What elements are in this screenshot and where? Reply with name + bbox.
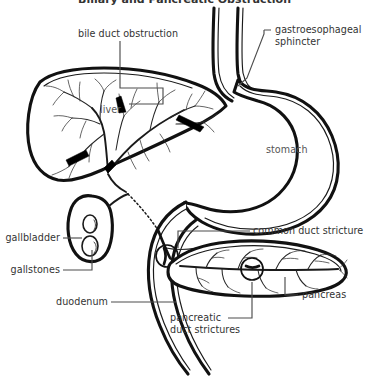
common-bile-duct-upper xyxy=(108,174,126,192)
label-gallstones: gallstones xyxy=(0,264,60,276)
bile-duct-twig-r3b xyxy=(203,122,214,132)
esophagus-left-wall xyxy=(213,8,232,101)
label-pancreas: pancreas xyxy=(302,289,346,301)
label-gallbladder: gallbladder xyxy=(0,232,60,244)
pancreas-group xyxy=(168,241,347,296)
gallbladder-group xyxy=(68,194,128,262)
label-duodenum: duodenum xyxy=(42,296,108,308)
pancreas-outline xyxy=(168,241,346,296)
liver-group xyxy=(28,68,226,181)
anatomy-diagram-figure: Biliary and Pancreatic Obstruction xyxy=(0,0,369,380)
label-common-duct-stricture: common duct stricture xyxy=(253,225,363,237)
gallstone-1 xyxy=(83,215,97,233)
label-pancreatic-duct-strictures-line1: pancreatic xyxy=(170,312,221,324)
label-stomach: stomach xyxy=(266,144,308,156)
gallstone-2 xyxy=(82,236,98,256)
label-gastroesophageal-sphincter-line1: gastroesophageal xyxy=(275,24,362,36)
label-gastroesophageal-sphincter-line2: sphincter xyxy=(275,36,320,48)
cystic-duct xyxy=(109,194,128,206)
label-bile-duct-obstruction: bile duct obstruction xyxy=(78,28,178,40)
label-liver: liver xyxy=(100,104,121,116)
common-bile-duct-hidden-segment xyxy=(128,194,158,230)
label-pancreatic-duct-strictures-line2: duct strictures xyxy=(170,324,240,336)
